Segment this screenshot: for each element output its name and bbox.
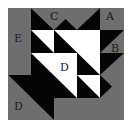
quilt-block-diagram: C A B E D D — [0, 0, 132, 125]
label-e: E — [14, 32, 22, 45]
label-a: A — [105, 10, 115, 23]
label-d-corner: D — [14, 100, 23, 113]
label-c: C — [50, 10, 58, 23]
label-d-center: D — [60, 61, 69, 74]
bottom-bar — [54, 98, 124, 120]
label-b: B — [111, 42, 119, 55]
